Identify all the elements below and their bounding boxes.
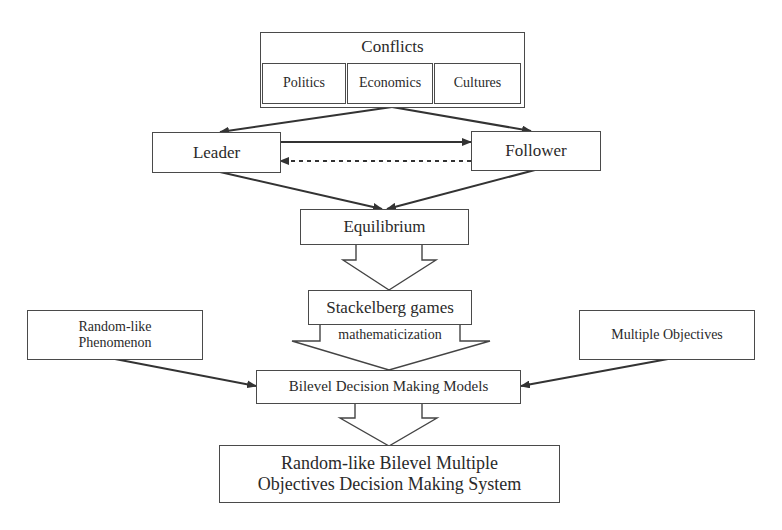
arrow-multiple-objectives-to-bilevel [521, 359, 668, 386]
stackelberg-label: Stackelberg games [326, 298, 454, 318]
random-like-label-line2: Phenomenon [78, 335, 151, 351]
hollow-arrow-bilevel-to-system [340, 403, 437, 446]
conflicts-politics-box: Politics [262, 63, 346, 104]
conflicts-economics-box: Economics [347, 63, 433, 104]
equilibrium-box: Equilibrium [300, 209, 469, 245]
system-label-line2: Objectives Decision Making System [258, 474, 521, 495]
economics-label: Economics [359, 75, 421, 91]
arrow-conflicts-to-follower [392, 107, 531, 131]
arrow-random-like-to-bilevel [115, 359, 256, 386]
mathematicization-label: mathematicization [320, 327, 460, 343]
conflicts-cultures-box: Cultures [434, 63, 521, 104]
conflicts-title: Conflicts [261, 37, 524, 57]
equilibrium-label: Equilibrium [343, 217, 425, 237]
random-like-phenomenon-box: Random-like Phenomenon [27, 310, 203, 360]
stackelberg-box: Stackelberg games [308, 290, 472, 325]
system-box: Random-like Bilevel Multiple Objectives … [219, 445, 560, 503]
follower-label: Follower [505, 141, 566, 161]
politics-label: Politics [283, 75, 325, 91]
cultures-label: Cultures [454, 75, 501, 91]
arrow-follower-to-equilibrium [387, 170, 535, 209]
leader-box: Leader [152, 132, 281, 173]
random-like-label-line1: Random-like [78, 319, 151, 335]
bilevel-models-box: Bilevel Decision Making Models [256, 370, 521, 404]
follower-box: Follower [471, 131, 601, 171]
arrow-conflicts-to-leader [220, 107, 392, 132]
leader-label: Leader [193, 143, 240, 163]
hollow-arrow-equilibrium-to-stackelberg [343, 245, 436, 290]
bilevel-models-label: Bilevel Decision Making Models [289, 378, 489, 395]
system-label-line1: Random-like Bilevel Multiple [281, 453, 498, 474]
multiple-objectives-label: Multiple Objectives [611, 327, 723, 343]
multiple-objectives-box: Multiple Objectives [579, 310, 755, 360]
arrow-leader-to-equilibrium [220, 172, 382, 209]
